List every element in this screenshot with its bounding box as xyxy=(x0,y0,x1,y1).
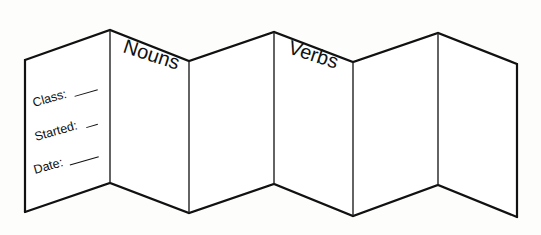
panel-3 xyxy=(189,32,274,213)
panel-fills xyxy=(25,30,517,217)
foldable-booklet-diagram: Nouns Verbs Class: Started: Date: xyxy=(0,0,541,235)
bottom-edge xyxy=(25,183,517,217)
